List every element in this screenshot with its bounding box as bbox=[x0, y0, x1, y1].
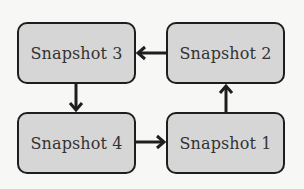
arrow-snapshot4-to-snapshot1 bbox=[136, 136, 164, 148]
arrow-snapshot1-to-snapshot2 bbox=[220, 86, 232, 112]
arrow-snapshot2-to-snapshot3 bbox=[138, 47, 166, 59]
edges-layer bbox=[0, 0, 304, 189]
arrow-snapshot3-to-snapshot4 bbox=[70, 84, 82, 110]
